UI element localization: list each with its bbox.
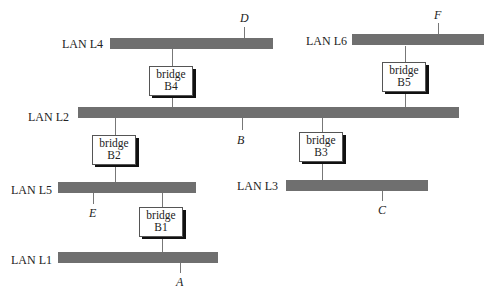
bridge-b2: bridge B2 (92, 135, 136, 164)
bridge-box: bridge B2 (92, 135, 136, 165)
host-a-label: A (176, 276, 183, 288)
host-f-link (438, 23, 439, 34)
b5-l6-link (405, 46, 406, 63)
bridge-box: bridge B4 (149, 66, 193, 96)
bridge-word: bridge (93, 137, 135, 149)
bridge-box: bridge B5 (382, 62, 426, 92)
lan-l1-label: LAN L1 (11, 254, 52, 266)
host-c-link (382, 191, 383, 201)
lan-l2-label: LAN L2 (28, 111, 69, 123)
bridge-word: bridge (300, 134, 342, 146)
lan-l5-bar (58, 182, 196, 193)
bridge-name: B3 (300, 146, 342, 158)
b4-l4-link (172, 49, 173, 67)
b1-l5-link (162, 193, 163, 207)
lan-l6-label: LAN L6 (306, 35, 347, 47)
lan-l3-label: LAN L3 (237, 180, 278, 192)
bridge-b5: bridge B5 (382, 62, 426, 91)
lan-l6-bar (352, 34, 484, 45)
host-c-label: C (378, 204, 386, 216)
lan-l2-bar (78, 107, 459, 118)
lan-l4-bar (110, 38, 273, 49)
b3-l2-link (322, 118, 323, 132)
bridge-name: B1 (140, 221, 182, 233)
bridge-name: B2 (93, 149, 135, 161)
host-d-label: D (240, 12, 249, 24)
bridge-word: bridge (140, 209, 182, 221)
b5-l2-link (405, 92, 406, 107)
host-f-label: F (434, 9, 441, 21)
b2-l2-link (115, 118, 116, 135)
bridge-b1: bridge B1 (139, 207, 183, 236)
bridge-word: bridge (383, 64, 425, 76)
bridge-name: B5 (383, 76, 425, 88)
host-b-label: B (237, 134, 244, 146)
host-d-link (244, 27, 245, 38)
host-a-link (180, 263, 181, 273)
host-e-link (93, 193, 94, 204)
lan-l3-bar (286, 180, 428, 191)
lan-l4-label: LAN L4 (62, 38, 103, 50)
bridge-word: bridge (150, 68, 192, 80)
bridge-box: bridge B1 (139, 207, 183, 237)
lan-bridge-diagram: LAN L4 D LAN L6 F bridge B4 bridge B5 LA… (0, 0, 494, 294)
lan-l1-bar (58, 252, 218, 263)
bridge-box: bridge B3 (299, 132, 343, 162)
lan-l5-label: LAN L5 (11, 184, 52, 196)
host-e-label: E (89, 207, 96, 219)
bridge-name: B4 (150, 80, 192, 92)
bridge-b3: bridge B3 (299, 132, 343, 161)
bridge-b4: bridge B4 (149, 66, 193, 95)
host-b-link (242, 118, 243, 130)
